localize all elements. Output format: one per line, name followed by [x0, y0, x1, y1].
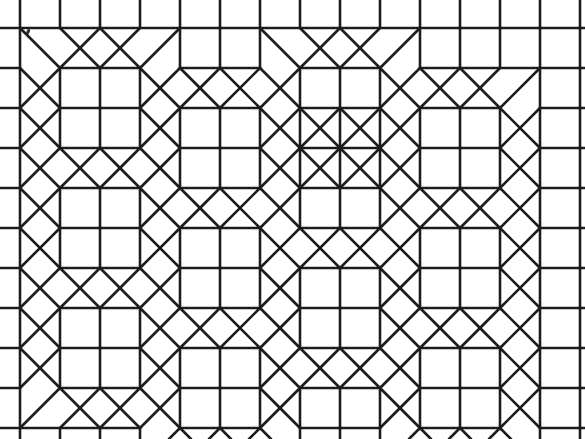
mesh-canvas — [0, 0, 585, 439]
mesh-figure — [0, 0, 585, 439]
